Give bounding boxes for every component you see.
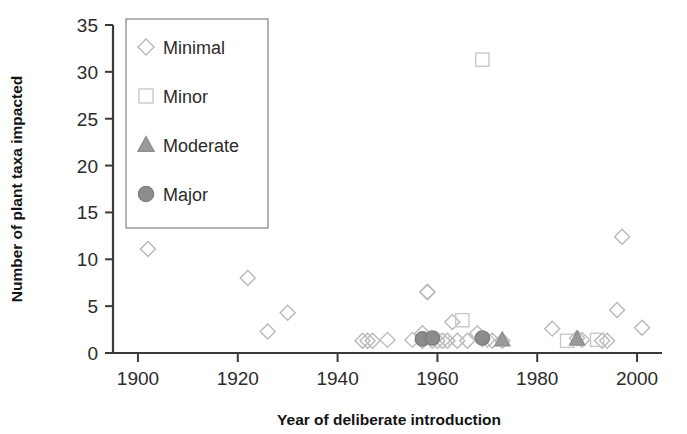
x-tick-label: 1940 [316, 368, 358, 389]
data-point [140, 241, 155, 256]
legend-label-major: Major [163, 185, 208, 205]
data-point [380, 332, 395, 347]
y-axis-ticks: 05101520253035 [77, 15, 113, 364]
data-point [615, 229, 630, 244]
data-point [355, 333, 370, 348]
data-point [545, 321, 560, 336]
data-point [420, 285, 435, 300]
y-tick-label: 15 [77, 202, 98, 223]
chart-canvas: 05101520253035 190019201940196019802000 … [0, 0, 687, 434]
data-point [260, 324, 275, 339]
data-point [280, 305, 295, 320]
data-point [360, 333, 375, 348]
scatter-plot-figure: 05101520253035 190019201940196019802000 … [0, 0, 687, 434]
x-tick-label: 1920 [217, 368, 259, 389]
legend: MinimalMinorModerateMajor [126, 19, 268, 228]
data-point [475, 331, 489, 345]
legend-label-moderate: Moderate [163, 136, 239, 156]
x-tick-label: 1900 [117, 368, 159, 389]
data-point [610, 302, 625, 317]
legend-label-minor: Minor [163, 87, 208, 107]
data-point [450, 333, 465, 348]
data-point [476, 53, 489, 66]
data-point [420, 285, 435, 300]
y-tick-label: 20 [77, 156, 98, 177]
x-tick-label: 1980 [516, 368, 558, 389]
x-axis-title: Year of deliberate introduction [277, 411, 501, 428]
data-point [240, 271, 255, 286]
x-tick-label: 2000 [616, 368, 658, 389]
data-point [635, 320, 650, 335]
data-point [425, 331, 439, 345]
y-tick-label: 30 [77, 62, 98, 83]
y-tick-label: 0 [87, 343, 98, 364]
series-minor [431, 53, 604, 347]
data-point [591, 333, 604, 346]
y-tick-label: 35 [77, 15, 98, 36]
x-axis-ticks: 190019201940196019802000 [117, 353, 658, 389]
y-tick-label: 10 [77, 249, 98, 270]
x-tick-label: 1960 [416, 368, 458, 389]
y-axis-title: Number of plant taxa impacted [8, 76, 25, 303]
series-minimal [140, 229, 649, 348]
data-point [440, 333, 455, 348]
legend-label-minimal: Minimal [163, 38, 225, 58]
data-point [365, 333, 380, 348]
y-tick-label: 25 [77, 109, 98, 130]
y-tick-label: 5 [87, 296, 98, 317]
circle-icon [138, 186, 153, 201]
